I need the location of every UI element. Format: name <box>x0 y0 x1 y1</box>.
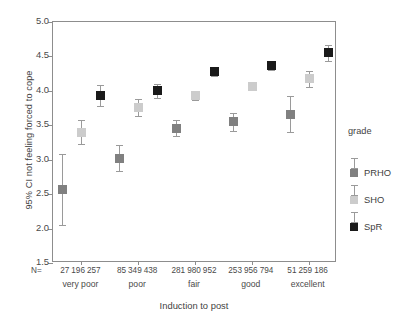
data-point-marker <box>305 74 314 83</box>
data-point-marker <box>324 48 333 57</box>
legend-item-prho[interactable]: PRHO <box>348 158 412 185</box>
sample-size-value: 196 <box>71 266 85 275</box>
error-bar-cap-upper <box>173 120 180 121</box>
legend-cap-upper-icon <box>351 185 358 186</box>
data-point-marker <box>58 185 67 194</box>
sample-size-value: 85 <box>117 266 126 275</box>
legend-cap-upper-icon <box>351 158 358 159</box>
error-bar-cap-upper <box>59 154 66 155</box>
sample-size-group: 85349438 <box>116 266 158 275</box>
sample-size-value: 51 <box>287 266 296 275</box>
error-bar-cap-upper <box>154 84 161 85</box>
error-bar-cap-upper <box>116 145 123 146</box>
x-category-label: very poor <box>62 279 98 289</box>
legend-swatch-icon <box>350 196 358 204</box>
legend: grade PRHOSHOSpR <box>348 126 412 239</box>
n-prefix-label: N= <box>31 266 42 275</box>
y-tick-label: 2.5 <box>36 187 49 198</box>
sample-size-value: 27 <box>60 266 69 275</box>
data-point-marker <box>267 61 276 70</box>
error-bar-cap-upper <box>230 113 237 114</box>
data-point-marker <box>172 124 181 133</box>
error-bar-cap-upper <box>325 45 332 46</box>
chart-figure: 95% CI not feeling forced to cope 1.52.0… <box>0 0 413 325</box>
error-bar-cap-lower <box>325 61 332 62</box>
x-tick-mark <box>309 261 310 265</box>
legend-items: PRHOSHOSpR <box>348 158 412 239</box>
legend-label: PRHO <box>364 167 391 178</box>
sample-size-group: 281980952 <box>170 266 217 275</box>
data-point-marker <box>77 128 86 137</box>
sample-size-value: 956 <box>244 266 258 275</box>
data-point-marker <box>210 67 219 76</box>
error-bar-cap-upper <box>78 120 85 121</box>
y-tick-label: 3.5 <box>36 118 49 129</box>
error-bar-cap-lower <box>287 132 294 133</box>
x-category-label: poor <box>129 279 146 289</box>
data-point-marker <box>248 82 257 91</box>
sample-size-value: 281 <box>171 266 185 275</box>
error-bar-cap-lower <box>154 98 161 99</box>
legend-item-sho[interactable]: SHO <box>348 185 412 212</box>
x-axis-title: Induction to post <box>52 300 336 311</box>
y-tick-label: 5.0 <box>36 15 49 26</box>
x-tick-mark <box>81 261 82 265</box>
data-point-marker <box>153 86 162 95</box>
legend-label: SHO <box>364 194 384 205</box>
legend-title: grade <box>348 126 412 136</box>
error-bar-cap-lower <box>173 136 180 137</box>
error-bar-cap-lower <box>211 76 218 77</box>
sample-size-value: 186 <box>314 266 328 275</box>
sample-size-value: 349 <box>128 266 142 275</box>
error-bar-cap-lower <box>116 171 123 172</box>
sample-size-value: 794 <box>260 266 274 275</box>
sample-size-value: 438 <box>144 266 158 275</box>
sample-size-value: 980 <box>187 266 201 275</box>
sample-size-value: 952 <box>203 266 217 275</box>
legend-cap-upper-icon <box>351 212 358 213</box>
sample-size-row: N= 2719625785349438281980952253956794512… <box>0 266 413 278</box>
sample-size-group: 51259186 <box>286 266 328 275</box>
data-point-marker <box>229 117 238 126</box>
data-point-marker <box>286 110 295 119</box>
x-tick-mark <box>138 261 139 265</box>
data-point-marker <box>115 154 124 163</box>
data-point-marker <box>96 91 105 100</box>
y-tick-label: 2.0 <box>36 222 49 233</box>
x-category-label: excellent <box>291 279 325 289</box>
error-bar-cap-lower <box>97 106 104 107</box>
error-bar-cap-lower <box>306 87 313 88</box>
error-bar-cap-lower <box>230 131 237 132</box>
x-tick-mark <box>195 261 196 265</box>
sample-size-group: 27196257 <box>59 266 101 275</box>
data-point-marker <box>191 91 200 100</box>
error-bar-cap-lower <box>78 144 85 145</box>
error-bar-cap-lower <box>59 225 66 226</box>
error-bar-cap-lower <box>268 70 275 71</box>
y-axis-title: 95% CI not feeling forced to cope <box>24 18 34 263</box>
plot-area: 1.52.02.53.03.54.04.55.0 <box>52 21 336 262</box>
error-bar-cap-upper <box>306 71 313 72</box>
y-tick-label: 4.5 <box>36 49 49 60</box>
error-bar-cap-upper <box>97 85 104 86</box>
error-bar-cap-upper <box>287 96 294 97</box>
legend-swatch-icon <box>350 169 358 177</box>
sample-size-value: 253 <box>228 266 242 275</box>
sample-size-value: 257 <box>87 266 101 275</box>
sample-size-group: 253956794 <box>227 266 274 275</box>
sample-size-value: 259 <box>298 266 312 275</box>
legend-swatch-icon <box>350 223 358 231</box>
error-bar-cap-lower <box>135 116 142 117</box>
error-bar-cap-upper <box>135 99 142 100</box>
x-category-label: good <box>241 279 260 289</box>
x-tick-mark <box>252 261 253 265</box>
legend-item-spr[interactable]: SpR <box>348 212 412 239</box>
y-tick-label: 3.0 <box>36 153 49 164</box>
y-tick-label: 4.0 <box>36 84 49 95</box>
legend-label: SpR <box>364 221 382 232</box>
data-point-marker <box>134 103 143 112</box>
x-category-label: fair <box>188 279 200 289</box>
